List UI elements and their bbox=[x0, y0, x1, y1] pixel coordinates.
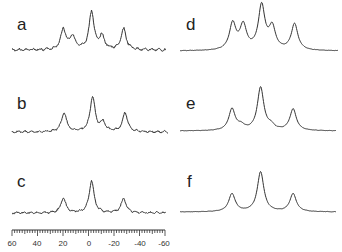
spectrum-a bbox=[12, 10, 166, 51]
panel-label-d: d bbox=[186, 15, 195, 35]
x-tick-label: -60 bbox=[158, 239, 170, 248]
spectra-figure bbox=[0, 0, 342, 252]
panel-label-f: f bbox=[187, 172, 192, 192]
spectrum-e bbox=[180, 87, 336, 131]
panel-label-e: e bbox=[186, 94, 195, 114]
x-tick-label: 20 bbox=[59, 239, 68, 248]
spectrum-c bbox=[12, 180, 166, 214]
x-tick-label: 0 bbox=[87, 239, 91, 248]
x-tick-label: -40 bbox=[134, 239, 146, 248]
spectrum-f bbox=[180, 172, 336, 212]
panel-label-a: a bbox=[17, 15, 26, 35]
x-tick-label: 40 bbox=[33, 239, 42, 248]
panel-label-b: b bbox=[17, 94, 26, 114]
x-tick-label: -20 bbox=[108, 239, 120, 248]
panel-label-c: c bbox=[17, 172, 26, 192]
spectrum-b bbox=[12, 97, 168, 134]
x-tick-label: 60 bbox=[8, 239, 17, 248]
spectrum-d bbox=[180, 2, 338, 50]
